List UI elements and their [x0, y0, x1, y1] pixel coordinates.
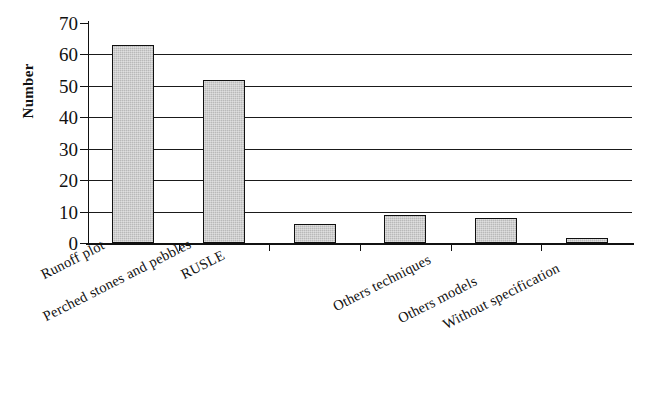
gridline: [88, 54, 632, 55]
x-tick-mark: [269, 244, 270, 251]
plot-area: [88, 23, 632, 243]
bar: [566, 238, 608, 243]
x-tick-mark: [541, 244, 542, 251]
y-tick-label: 60: [59, 44, 78, 66]
x-axis-category-label: Perched stones and pebbles: [40, 235, 194, 325]
chart-figure: Number 010203040506070 Runoff plotRUSLEP…: [0, 0, 663, 406]
bar: [384, 215, 426, 243]
bar: [475, 218, 517, 243]
y-tick-label: 50: [59, 76, 78, 98]
y-tick-label: 20: [59, 170, 78, 192]
gridline: [88, 117, 632, 118]
y-axis-title: Number: [20, 79, 37, 119]
bar: [203, 80, 245, 243]
y-tick-label: 10: [59, 202, 78, 224]
y-tick-label: 70: [59, 13, 78, 35]
bar: [294, 224, 336, 243]
bar: [112, 45, 154, 243]
gridline: [88, 212, 632, 213]
y-tick-label: 30: [59, 139, 78, 161]
gridline: [88, 86, 632, 87]
gridline: [88, 180, 632, 181]
x-tick-mark: [360, 244, 361, 251]
gridline: [88, 149, 632, 150]
x-tick-mark: [451, 244, 452, 251]
y-tick-label: 40: [59, 107, 78, 129]
